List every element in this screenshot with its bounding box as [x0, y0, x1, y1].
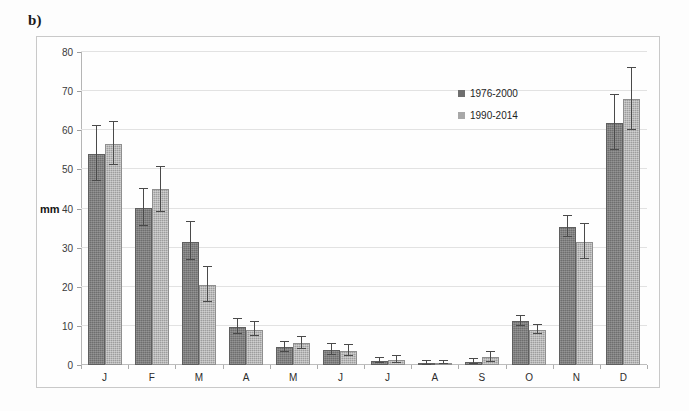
x-tick-label-january: J	[102, 372, 107, 383]
bar-october-series2	[529, 330, 546, 365]
x-tick-mark-2	[175, 365, 176, 369]
error-bar-november-series2	[584, 224, 585, 259]
x-tick-label-april: A	[243, 372, 250, 383]
error-bar-january-series1	[96, 126, 97, 181]
bar-february-series1	[135, 208, 152, 365]
panel-label: b)	[28, 12, 42, 29]
bar-group-april	[229, 52, 263, 365]
x-tick-mark-9	[506, 365, 507, 369]
legend-swatch-icon-series2	[458, 112, 465, 119]
x-tick-mark-5	[317, 365, 318, 369]
error-cap-lower-march-series2	[203, 301, 212, 302]
x-tick-mark-0	[81, 365, 82, 369]
error-cap-lower-september-series2	[486, 361, 495, 362]
x-tick-mark-4	[270, 365, 271, 369]
error-bar-december-series1	[614, 95, 615, 150]
error-cap-lower-may-series2	[297, 348, 306, 349]
x-tick-mark-6	[364, 365, 365, 369]
bar-group-march	[182, 52, 216, 365]
error-cap-upper-december-series1	[610, 94, 619, 95]
error-cap-lower-september-series1	[469, 363, 478, 364]
error-cap-lower-may-series1	[280, 351, 289, 352]
error-cap-upper-august-series2	[439, 360, 448, 361]
bar-december-series2	[623, 99, 640, 365]
error-cap-upper-february-series2	[156, 166, 165, 167]
bar-january-series2	[105, 144, 122, 365]
error-cap-upper-november-series1	[563, 215, 572, 216]
y-tick-label-70: 70	[49, 86, 73, 97]
x-tick-mark-10	[553, 365, 554, 369]
error-cap-lower-june-series1	[327, 354, 336, 355]
bar-november-series2	[576, 242, 593, 365]
error-cap-lower-november-series2	[580, 258, 589, 259]
y-tick-label-20: 20	[49, 281, 73, 292]
error-cap-upper-may-series2	[297, 336, 306, 337]
error-cap-upper-october-series1	[516, 315, 525, 316]
error-cap-lower-august-series2	[439, 363, 448, 364]
error-cap-lower-january-series1	[92, 180, 101, 181]
x-tick-label-december: D	[620, 372, 627, 383]
y-tick-label-50: 50	[49, 164, 73, 175]
y-tick-label-10: 10	[49, 320, 73, 331]
y-tick-label-80: 80	[49, 47, 73, 58]
error-bar-march-series1	[190, 222, 191, 260]
error-cap-lower-october-series2	[533, 333, 542, 334]
bar-november-series1	[559, 227, 576, 365]
error-cap-lower-january-series2	[109, 164, 118, 165]
bar-group-june	[323, 52, 357, 365]
error-cap-upper-february-series1	[139, 188, 148, 189]
bar-january-series1	[88, 154, 105, 365]
legend-label-series2: 1990-2014	[470, 110, 518, 121]
error-cap-upper-november-series2	[580, 223, 589, 224]
y-tick-label-40: 40	[49, 203, 73, 214]
error-cap-upper-september-series2	[486, 351, 495, 352]
error-cap-upper-january-series1	[92, 125, 101, 126]
error-cap-upper-december-series2	[627, 67, 636, 68]
error-cap-upper-march-series1	[186, 221, 195, 222]
bar-group-may	[276, 52, 310, 365]
error-cap-upper-may-series1	[280, 341, 289, 342]
error-cap-lower-april-series1	[233, 333, 242, 334]
error-bar-march-series2	[207, 267, 208, 302]
legend-swatch-icon-series1	[458, 90, 465, 97]
error-cap-lower-august-series1	[422, 364, 431, 365]
error-cap-lower-november-series1	[563, 236, 572, 237]
error-cap-upper-june-series1	[327, 343, 336, 344]
error-cap-lower-december-series1	[610, 149, 619, 150]
y-tick-label-0: 0	[49, 360, 73, 371]
error-cap-upper-september-series1	[469, 358, 478, 359]
legend-item-1976-2000: 1976-2000	[458, 84, 578, 102]
error-bar-february-series2	[160, 167, 161, 212]
x-tick-mark-11	[600, 365, 601, 369]
error-cap-upper-march-series2	[203, 266, 212, 267]
error-cap-upper-july-series2	[392, 355, 401, 356]
error-cap-lower-july-series1	[375, 362, 384, 363]
x-tick-mark-end	[647, 365, 648, 369]
error-cap-lower-december-series2	[627, 129, 636, 130]
error-cap-lower-february-series2	[156, 211, 165, 212]
x-tick-label-may: M	[289, 372, 297, 383]
error-bar-december-series2	[631, 68, 632, 131]
bar-group-august	[418, 52, 452, 365]
x-tick-label-september: S	[479, 372, 486, 383]
error-bar-november-series1	[567, 216, 568, 237]
chart-legend: 1976-2000 1990-2014	[458, 84, 578, 128]
x-tick-mark-7	[411, 365, 412, 369]
y-tick-label-60: 60	[49, 125, 73, 136]
figure-panel-b: b) mm 01020304050607080 JFMAMJJASOND 197…	[0, 0, 689, 411]
error-cap-upper-august-series1	[422, 360, 431, 361]
bar-february-series2	[152, 189, 169, 365]
error-cap-upper-june-series2	[344, 344, 353, 345]
error-cap-lower-march-series1	[186, 259, 195, 260]
error-cap-upper-october-series2	[533, 324, 542, 325]
y-tick-label-30: 30	[49, 242, 73, 253]
bar-march-series1	[182, 242, 199, 365]
error-bar-january-series2	[113, 122, 114, 165]
legend-item-1990-2014: 1990-2014	[458, 106, 578, 124]
error-cap-lower-april-series2	[250, 335, 259, 336]
bar-group-february	[135, 52, 169, 365]
bar-group-july	[371, 52, 405, 365]
error-cap-upper-january-series2	[109, 121, 118, 122]
x-tick-label-august: A	[431, 372, 438, 383]
legend-label-series1: 1976-2000	[470, 88, 518, 99]
